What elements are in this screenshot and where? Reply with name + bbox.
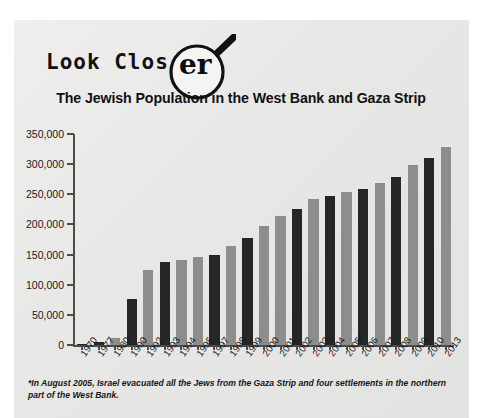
bar-2003	[308, 199, 318, 345]
bar-2009	[408, 165, 418, 345]
y-axis-tick	[67, 344, 74, 346]
bar-1997	[209, 255, 219, 345]
bar-1993	[160, 262, 170, 345]
bar-2001	[275, 216, 285, 345]
bar-2010	[424, 158, 434, 345]
bar-2004	[325, 196, 335, 345]
look-closer-logo: Look Clos er	[46, 36, 276, 96]
footnote: *In August 2005, Israel evacuated all th…	[28, 378, 452, 401]
y-axis-tick	[67, 284, 74, 286]
bars-group	[74, 134, 454, 345]
y-axis-tick	[67, 254, 74, 256]
bar-2005	[341, 192, 351, 345]
bar-1994	[176, 260, 186, 345]
bar-2007	[375, 183, 385, 345]
bar-2000	[259, 226, 269, 345]
bar-1995	[193, 257, 203, 345]
y-axis-tick	[67, 163, 74, 165]
y-axis-tick	[67, 193, 74, 195]
y-axis-label: 50,000	[32, 309, 64, 321]
bar-2013	[441, 147, 451, 345]
bar-1998	[226, 246, 236, 345]
y-axis-label: 0	[58, 339, 64, 351]
y-axis-tick	[67, 314, 74, 316]
bar-chart: 050,000100,000150,000200,000250,000300,0…	[74, 134, 454, 345]
bar-2002	[292, 209, 302, 345]
bar-1999	[242, 238, 252, 345]
y-axis-tick	[67, 133, 74, 135]
y-axis-label: 250,000	[26, 188, 64, 200]
y-axis-label: 350,000	[26, 128, 64, 140]
bar-1992	[143, 270, 153, 345]
bar-2006	[358, 189, 368, 345]
logo-text: Look Clos	[46, 50, 169, 74]
y-axis-label: 150,000	[26, 249, 64, 261]
y-axis-label: 100,000	[26, 279, 64, 291]
page-title: The Jewish Population in the West Bank a…	[0, 90, 482, 106]
bar-2008	[391, 177, 401, 345]
y-axis-label: 200,000	[26, 218, 64, 230]
y-axis-tick	[67, 223, 74, 225]
page-root: Look Clos er The Jewish Population in th…	[0, 0, 482, 418]
y-axis-label: 300,000	[26, 158, 64, 170]
logo-lens-text: er	[179, 48, 212, 81]
